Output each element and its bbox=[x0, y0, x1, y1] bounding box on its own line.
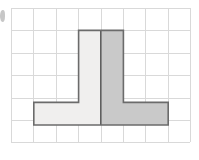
shape-layer bbox=[0, 0, 199, 160]
composite-shape-svg bbox=[0, 0, 199, 160]
shape-fill-left-region bbox=[32, 28, 101, 127]
shape-fill-right-region bbox=[101, 28, 170, 127]
edge-artifact-mark bbox=[0, 10, 5, 22]
figure-root: Shaded composite shape on square grid bbox=[0, 0, 199, 160]
